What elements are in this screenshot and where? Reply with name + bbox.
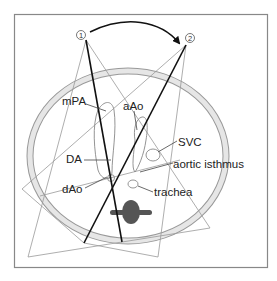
position-1-label: 1 <box>79 31 83 40</box>
label-SVC: SVC <box>178 136 202 148</box>
label-mPA: mPA <box>62 95 86 107</box>
SVC-vessel <box>146 149 160 161</box>
position-1-marker: 1 <box>77 31 86 40</box>
label-dAo: dAo <box>62 183 82 195</box>
frame <box>15 15 268 268</box>
move-arrow <box>90 22 179 43</box>
label-DA: DA <box>66 153 82 165</box>
position-2-marker: 2 <box>186 34 195 43</box>
fetal-thorax-diagram: 1 2 mPA aAo SVC aortic isthmus DA dAo tr… <box>0 0 277 281</box>
trachea-vessel <box>128 180 138 188</box>
leader-lines <box>84 104 177 192</box>
position-2-label: 2 <box>188 34 192 43</box>
label-aAo: aAo <box>123 100 143 112</box>
label-aortic-isthmus: aortic isthmus <box>173 158 244 170</box>
label-trachea: trachea <box>154 186 193 198</box>
